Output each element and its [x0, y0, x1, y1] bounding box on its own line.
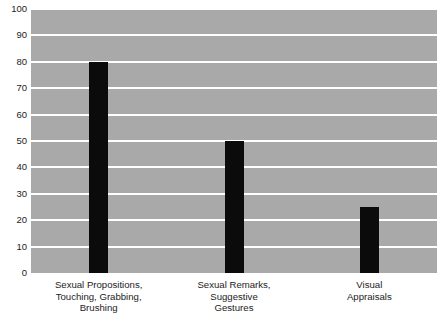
y-tick-label: 80 — [0, 57, 27, 67]
y-tick-label: 100 — [0, 4, 27, 14]
gridline — [31, 8, 437, 10]
x-axis: Sexual Propositions,Touching, Grabbing,B… — [31, 279, 437, 322]
x-label-line: Sexual Propositions, — [31, 279, 166, 291]
gridline — [31, 34, 437, 36]
y-tick-label: 20 — [0, 215, 27, 225]
y-tick-label: 0 — [0, 268, 27, 278]
y-tick-label: 50 — [0, 136, 27, 146]
x-axis-label: Sexual Propositions,Touching, Grabbing,B… — [31, 279, 166, 314]
y-tick-label: 10 — [0, 242, 27, 252]
y-tick-label: 30 — [0, 189, 27, 199]
bar — [225, 141, 244, 273]
x-label-line: Appraisals — [302, 291, 437, 303]
bar-chart: 1009080706050403020100 Sexual Propositio… — [0, 0, 446, 322]
y-tick-label: 70 — [0, 83, 27, 93]
y-tick-label: 40 — [0, 162, 27, 172]
x-label-line: Brushing — [31, 302, 166, 314]
y-tick-label: 60 — [0, 110, 27, 120]
plot-area — [31, 8, 437, 273]
x-axis-label: VisualAppraisals — [302, 279, 437, 302]
x-label-line: Suggestive — [166, 291, 301, 303]
x-axis-label: Sexual Remarks,SuggestiveGestures — [166, 279, 301, 314]
y-axis: 1009080706050403020100 — [0, 8, 27, 273]
x-label-line: Touching, Grabbing, — [31, 291, 166, 303]
bar — [360, 207, 379, 273]
bar — [89, 62, 108, 273]
chart-title — [0, 0, 446, 2]
x-label-line: Gestures — [166, 302, 301, 314]
x-label-line: Sexual Remarks, — [166, 279, 301, 291]
x-label-line: Visual — [302, 279, 437, 291]
y-tick-label: 90 — [0, 30, 27, 40]
